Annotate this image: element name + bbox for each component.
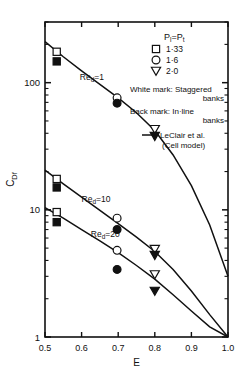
data-point-square-open: [53, 175, 60, 182]
chart-canvas: 0.50.60.70.80.91.0E110100CDfRed=1Red=10R…: [0, 0, 252, 378]
data-point-square-filled: [53, 184, 60, 191]
annotation-reynolds: Red=10: [82, 194, 111, 205]
data-point-square-open: [53, 208, 60, 215]
y-tick-label: 10: [29, 204, 40, 215]
annotation-reynolds: Red=1: [80, 72, 104, 83]
x-tick-label: 0.7: [112, 343, 125, 353]
data-point-circle-filled: [113, 266, 121, 274]
data-point-triangle-down-filled: [150, 132, 159, 140]
legend-label-triangle-down: 2·0: [166, 66, 179, 76]
data-point-circle-open: [113, 214, 121, 222]
legend-curve-label-1: LeClair et al.: [160, 131, 205, 140]
data-point-square-filled: [53, 219, 60, 226]
data-point-square-open: [53, 48, 60, 55]
data-point-circle-filled: [113, 99, 121, 107]
model-curve: [45, 42, 228, 277]
annotation-reynolds: Red=20: [91, 229, 120, 240]
x-tick-label: 1.0: [222, 343, 235, 353]
x-tick-label: 0.9: [185, 343, 198, 353]
model-curve: [45, 170, 228, 337]
legend-marker-triangle-down: [151, 67, 160, 75]
x-tick-label: 0.5: [39, 343, 52, 353]
legend-header: Pl=Pt: [164, 32, 185, 43]
legend-note-line2: banks: [203, 116, 224, 125]
legend-label-square: 1·33: [166, 44, 183, 54]
x-tick-label: 0.8: [149, 343, 162, 353]
legend-marker-square: [152, 45, 159, 52]
data-point-circle-open: [113, 246, 121, 254]
data-point-triangle-down-filled: [150, 287, 159, 295]
model-curve: [45, 208, 228, 337]
plot-frame: [45, 22, 228, 337]
legend-curve-label-2: (Cell model): [162, 141, 205, 150]
data-point-square-filled: [53, 58, 60, 65]
legend-note-line1: White mark: Staggered: [130, 85, 212, 94]
x-tick-label: 0.6: [75, 343, 88, 353]
y-tick-label: 100: [24, 77, 40, 88]
figure-container: 0.50.60.70.80.91.0E110100CDfRed=1Red=10R…: [0, 0, 252, 378]
y-tick-label: 1: [35, 332, 40, 343]
legend-label-circle: 1·6: [166, 55, 179, 65]
x-axis-label: E: [133, 357, 140, 368]
legend-note-line2: banks: [203, 94, 224, 103]
y-axis-label: CDf: [5, 171, 19, 187]
legend-marker-circle: [152, 56, 160, 64]
legend-note-line1: Back mark: In·line: [130, 107, 195, 116]
